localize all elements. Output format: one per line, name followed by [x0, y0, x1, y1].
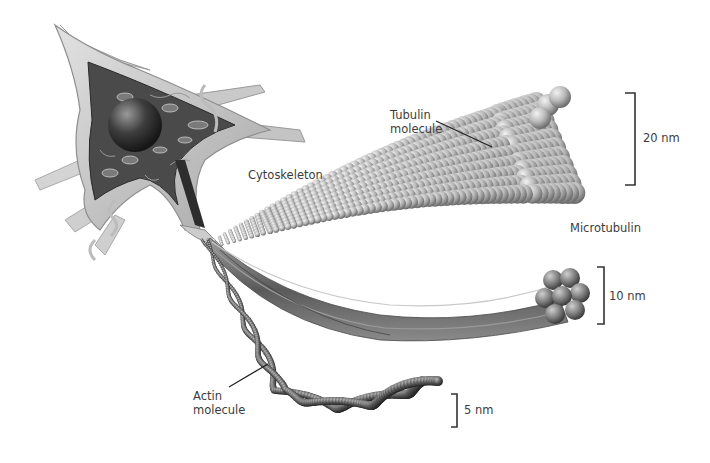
actin-label-line2: molecule [193, 403, 245, 417]
neurofilament-bundle [205, 238, 590, 341]
microtubule-label: Microtubulin [570, 221, 641, 235]
cytoskeleton-diagram: Cytoskeleton Tubulin molecule Microtubul… [0, 0, 710, 463]
nucleus [108, 98, 162, 152]
scale-bar-5nm [451, 394, 457, 427]
actin-leader-line [229, 364, 268, 387]
scale-label-5nm: 5 nm [464, 403, 493, 417]
scale-bar-20nm [625, 93, 635, 185]
tubulin-label-line2: molecule [390, 122, 442, 136]
actin-label-line1: Actin [193, 389, 222, 403]
scale-label-10nm: 10 nm [609, 289, 646, 303]
scale-bar-10nm [597, 267, 604, 324]
cytoskeleton-label: Cytoskeleton [248, 168, 323, 182]
scale-label-20nm: 20 nm [643, 131, 680, 145]
tubulin-label-line1: Tubulin [390, 108, 431, 122]
